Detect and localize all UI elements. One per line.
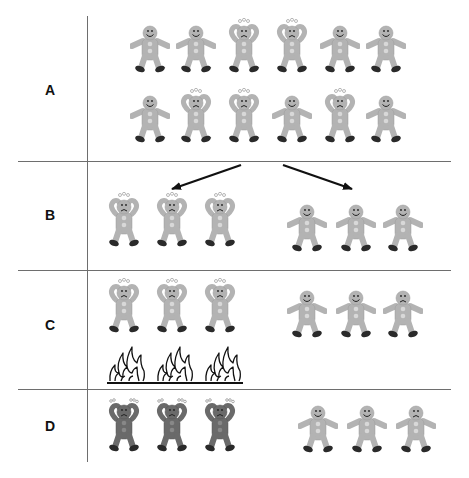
panel-a-row2-5-stressed-figure-icon (320, 88, 360, 144)
fire-base-line (107, 382, 243, 384)
row-label-a: A (40, 82, 60, 98)
panel-b-left-3-stressed-figure-icon (200, 192, 240, 248)
row-label-b: B (40, 207, 60, 223)
row-label-c: C (40, 317, 60, 333)
row-divider-a-b (18, 161, 451, 162)
panel-c-3-fire-icon (203, 343, 243, 383)
panel-d-left-3-stressed-dark-figure-icon (200, 397, 240, 453)
panel-a-row1-6-happy-figure-icon (366, 18, 406, 74)
panel-a-row2-2-stressed-figure-icon (176, 88, 216, 144)
panel-a-row2-4-happy-figure-icon (272, 88, 312, 144)
panel-c-right-3-sad-figure-icon (383, 283, 423, 339)
row-divider-c-d (18, 389, 451, 390)
panel-a-row1-2-happy-figure-icon (176, 18, 216, 74)
panel-d-left-1-stressed-dark-figure-icon (104, 397, 144, 453)
arrow-left (172, 165, 241, 189)
panel-a-row1-5-happy-figure-icon (320, 18, 360, 74)
panel-c-2-fire-icon (155, 343, 195, 383)
panel-d-right-1-happy-figure-icon (298, 398, 338, 454)
panel-a-row2-1-happy-figure-icon (130, 88, 170, 144)
panel-d-right-3-sad-figure-icon (396, 398, 436, 454)
panel-b-left-2-stressed-figure-icon (152, 192, 192, 248)
panel-b-right-2-happy-figure-icon (336, 197, 376, 253)
panel-d-right-2-happy-figure-icon (347, 398, 387, 454)
panel-a-row2-6-happy-figure-icon (366, 88, 406, 144)
panel-c-left-2-stressed-figure-icon (152, 278, 192, 334)
panel-d-left-2-stressed-dark-figure-icon (152, 397, 192, 453)
panel-a-row1-3-stressed-figure-icon (224, 18, 264, 74)
panel-a-row2-3-stressed-figure-icon (224, 88, 264, 144)
panel-a-row1-4-stressed-figure-icon (272, 18, 312, 74)
panel-a-row1-1-happy-figure-icon (130, 18, 170, 74)
panel-b-right-1-happy-figure-icon (287, 197, 327, 253)
column-divider (87, 16, 88, 462)
panel-b-left-1-stressed-figure-icon (104, 192, 144, 248)
panel-c-left-1-stressed-figure-icon (104, 278, 144, 334)
arrow-right (283, 165, 352, 189)
row-divider-b-c (18, 270, 451, 271)
panel-c-1-fire-icon (107, 343, 147, 383)
panel-c-right-2-happy-figure-icon (336, 283, 376, 339)
panel-c-left-3-stressed-figure-icon (200, 278, 240, 334)
panel-c-right-1-happy-figure-icon (287, 283, 327, 339)
row-label-d: D (40, 418, 60, 434)
panel-b-right-3-happy-figure-icon (383, 197, 423, 253)
